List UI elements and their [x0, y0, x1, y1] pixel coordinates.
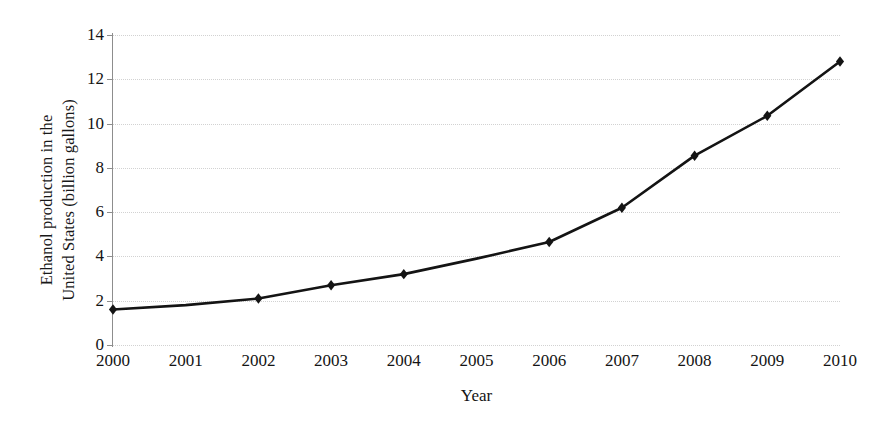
y-axis-title-line-2: United States (billion gallons) — [58, 99, 80, 301]
y-axis-title-line-1: Ethanol production in the — [36, 115, 58, 286]
x-axis-tick-label: 2003 — [314, 351, 348, 371]
y-axis-title: Ethanol production in the United States … — [28, 40, 88, 360]
data-point-marker — [400, 269, 408, 279]
x-axis-tick-label: 2006 — [532, 351, 566, 371]
data-point-markers — [109, 56, 844, 314]
data-point-marker — [618, 203, 626, 213]
x-axis-title: Year — [113, 386, 840, 406]
y-axis-tick-label: 6 — [96, 202, 105, 222]
data-point-marker — [691, 150, 699, 160]
x-axis-tick-label: 2010 — [823, 351, 857, 371]
line-series-svg — [113, 35, 840, 345]
x-axis-tick-label: 2005 — [460, 351, 494, 371]
y-axis-tick-label: 12 — [87, 69, 104, 89]
x-axis-tick-label: 2002 — [241, 351, 275, 371]
x-axis-tick-label: 2007 — [605, 351, 639, 371]
y-axis-tick-label: 8 — [96, 157, 105, 177]
x-axis-tick-label: 2001 — [169, 351, 203, 371]
chart-figure: Ethanol production in the United States … — [0, 0, 893, 425]
x-axis-tick-label: 2008 — [678, 351, 712, 371]
y-axis-tick-mark — [107, 345, 113, 346]
y-axis-tick-label: 14 — [87, 25, 104, 45]
data-point-marker — [327, 280, 335, 290]
y-axis-tick-label: 2 — [96, 290, 105, 310]
data-point-marker — [254, 293, 262, 303]
data-point-marker — [545, 237, 553, 247]
x-axis-tick-label: 2009 — [750, 351, 784, 371]
y-axis-tick-label: 10 — [87, 113, 104, 133]
y-axis-tick-label: 4 — [96, 246, 105, 266]
data-point-marker — [109, 304, 117, 314]
x-axis-tick-label: 2000 — [96, 351, 130, 371]
gridline — [113, 345, 840, 346]
plot-area: 02468101214 2000200120022003200420052006… — [113, 35, 840, 345]
x-axis-tick-label: 2004 — [387, 351, 421, 371]
line-series-path — [113, 62, 840, 310]
